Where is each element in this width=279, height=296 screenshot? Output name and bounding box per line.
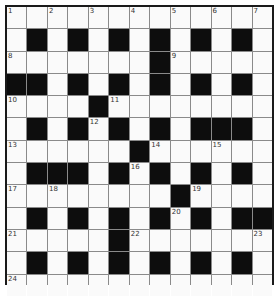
answer-cell[interactable]	[27, 275, 46, 296]
answer-cell[interactable]	[130, 185, 149, 206]
answer-cell[interactable]: 16	[130, 163, 149, 184]
answer-cell[interactable]	[212, 74, 231, 95]
answer-cell[interactable]: 12	[89, 118, 108, 139]
answer-cell[interactable]	[191, 96, 210, 117]
answer-cell[interactable]	[212, 275, 231, 296]
answer-cell[interactable]	[171, 230, 190, 251]
answer-cell[interactable]	[171, 275, 190, 296]
answer-cell[interactable]	[150, 275, 169, 296]
answer-cell[interactable]	[48, 96, 67, 117]
answer-cell[interactable]	[130, 96, 149, 117]
answer-cell[interactable]	[27, 96, 46, 117]
answer-cell[interactable]	[191, 52, 210, 73]
answer-cell[interactable]: 15	[212, 141, 231, 162]
answer-cell[interactable]	[212, 185, 231, 206]
answer-cell[interactable]	[48, 275, 67, 296]
answer-cell[interactable]	[7, 163, 26, 184]
answer-cell[interactable]	[171, 74, 190, 95]
answer-cell[interactable]	[253, 252, 272, 273]
answer-cell[interactable]	[7, 118, 26, 139]
answer-cell[interactable]	[253, 52, 272, 73]
answer-cell[interactable]	[89, 29, 108, 50]
answer-cell[interactable]	[89, 141, 108, 162]
answer-cell[interactable]	[48, 230, 67, 251]
answer-cell[interactable]: 1	[7, 7, 26, 28]
answer-cell[interactable]	[171, 252, 190, 273]
answer-cell[interactable]: 5	[171, 7, 190, 28]
answer-cell[interactable]	[7, 208, 26, 229]
answer-cell[interactable]	[253, 185, 272, 206]
answer-cell[interactable]	[27, 141, 46, 162]
answer-cell[interactable]	[89, 252, 108, 273]
answer-cell[interactable]	[212, 208, 231, 229]
answer-cell[interactable]	[232, 185, 251, 206]
answer-cell[interactable]: 3	[89, 7, 108, 28]
answer-cell[interactable]	[171, 141, 190, 162]
answer-cell[interactable]	[150, 96, 169, 117]
answer-cell[interactable]	[171, 163, 190, 184]
answer-cell[interactable]: 11	[109, 96, 128, 117]
answer-cell[interactable]	[27, 230, 46, 251]
answer-cell[interactable]	[232, 52, 251, 73]
answer-cell[interactable]	[109, 52, 128, 73]
answer-cell[interactable]	[130, 252, 149, 273]
answer-cell[interactable]	[89, 230, 108, 251]
answer-cell[interactable]	[212, 96, 231, 117]
answer-cell[interactable]	[48, 118, 67, 139]
answer-cell[interactable]	[27, 185, 46, 206]
answer-cell[interactable]	[150, 230, 169, 251]
answer-cell[interactable]	[212, 163, 231, 184]
answer-cell[interactable]	[232, 96, 251, 117]
answer-cell[interactable]	[48, 252, 67, 273]
answer-cell[interactable]	[89, 163, 108, 184]
answer-cell[interactable]	[68, 185, 87, 206]
answer-cell[interactable]	[109, 185, 128, 206]
answer-cell[interactable]	[130, 74, 149, 95]
answer-cell[interactable]	[253, 118, 272, 139]
answer-cell[interactable]	[109, 141, 128, 162]
answer-cell[interactable]: 8	[7, 52, 26, 73]
answer-cell[interactable]	[171, 96, 190, 117]
answer-cell[interactable]	[68, 141, 87, 162]
answer-cell[interactable]	[68, 7, 87, 28]
answer-cell[interactable]: 23	[253, 230, 272, 251]
answer-cell[interactable]	[171, 118, 190, 139]
answer-cell[interactable]	[232, 230, 251, 251]
answer-cell[interactable]	[253, 96, 272, 117]
answer-cell[interactable]: 2	[48, 7, 67, 28]
answer-cell[interactable]: 20	[171, 208, 190, 229]
answer-cell[interactable]	[212, 52, 231, 73]
answer-cell[interactable]	[150, 185, 169, 206]
answer-cell[interactable]: 17	[7, 185, 26, 206]
answer-cell[interactable]	[130, 29, 149, 50]
answer-cell[interactable]: 18	[48, 185, 67, 206]
answer-cell[interactable]	[48, 29, 67, 50]
answer-cell[interactable]	[68, 275, 87, 296]
answer-cell[interactable]	[232, 275, 251, 296]
answer-cell[interactable]	[68, 230, 87, 251]
answer-cell[interactable]	[89, 208, 108, 229]
answer-cell[interactable]: 4	[130, 7, 149, 28]
answer-cell[interactable]	[150, 7, 169, 28]
answer-cell[interactable]	[191, 275, 210, 296]
answer-cell[interactable]	[191, 7, 210, 28]
answer-cell[interactable]: 13	[7, 141, 26, 162]
answer-cell[interactable]	[68, 52, 87, 73]
answer-cell[interactable]	[212, 230, 231, 251]
answer-cell[interactable]	[130, 118, 149, 139]
answer-cell[interactable]	[89, 275, 108, 296]
answer-cell[interactable]	[171, 29, 190, 50]
answer-cell[interactable]	[253, 275, 272, 296]
answer-cell[interactable]: 7	[253, 7, 272, 28]
answer-cell[interactable]: 19	[191, 185, 210, 206]
answer-cell[interactable]: 24	[7, 275, 26, 296]
answer-cell[interactable]	[89, 52, 108, 73]
answer-cell[interactable]	[89, 185, 108, 206]
answer-cell[interactable]	[212, 252, 231, 273]
answer-cell[interactable]	[253, 141, 272, 162]
answer-cell[interactable]: 10	[7, 96, 26, 117]
answer-cell[interactable]	[7, 252, 26, 273]
answer-cell[interactable]	[253, 29, 272, 50]
answer-cell[interactable]: 14	[150, 141, 169, 162]
answer-cell[interactable]	[27, 52, 46, 73]
